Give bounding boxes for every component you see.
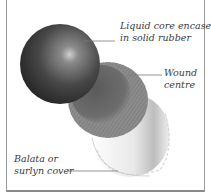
label-wound-centre: Wound centre bbox=[164, 67, 197, 91]
label-line: in solid rubber bbox=[120, 32, 211, 44]
label-line: Wound bbox=[164, 67, 197, 79]
label-line: surlyn cover bbox=[14, 165, 74, 177]
label-line: Liquid core encased bbox=[120, 20, 211, 32]
liquid-core-sphere bbox=[20, 24, 100, 104]
label-line: centre bbox=[164, 79, 197, 91]
label-liquid-core: Liquid core encased in solid rubber bbox=[120, 20, 211, 44]
label-line: Balata or bbox=[14, 153, 74, 165]
label-cover: Balata or surlyn cover bbox=[14, 153, 74, 177]
